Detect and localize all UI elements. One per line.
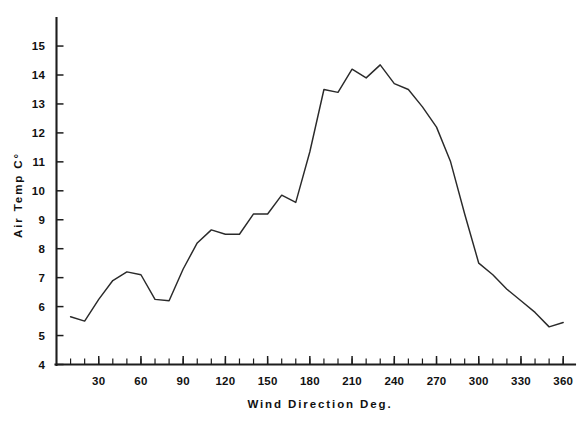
y-tick-label: 14 [32, 69, 46, 81]
x-tick-label: 330 [511, 375, 531, 387]
x-axis-major-ticks [99, 356, 563, 365]
x-tick-label: 90 [177, 375, 190, 387]
y-tick-label: 15 [32, 40, 46, 52]
x-axis-title: Wind Direction Deg. [247, 398, 392, 410]
x-tick-label: 120 [216, 375, 236, 387]
y-tick-label: 4 [38, 359, 45, 371]
y-tick-label: 8 [38, 243, 45, 255]
chart-container: 456789101112131415 306090120150180210240… [0, 0, 588, 430]
y-tick-label: 5 [38, 330, 45, 342]
x-tick-label: 30 [92, 375, 105, 387]
x-tick-label: 180 [300, 375, 320, 387]
x-tick-label: 210 [342, 375, 362, 387]
y-tick-label: 11 [32, 156, 45, 168]
y-axis-tick-labels: 456789101112131415 [32, 40, 46, 370]
y-tick-label: 10 [32, 185, 45, 197]
y-tick-label: 12 [32, 127, 45, 139]
x-tick-label: 300 [469, 375, 489, 387]
x-tick-label: 360 [553, 375, 573, 387]
x-tick-label: 240 [384, 375, 404, 387]
x-tick-label: 270 [427, 375, 447, 387]
data-series-line [71, 65, 564, 327]
x-tick-label: 60 [134, 375, 147, 387]
x-axis-tick-labels: 306090120150180210240270300330360 [92, 375, 573, 387]
y-tick-label: 7 [38, 272, 45, 284]
y-tick-label: 6 [38, 301, 45, 313]
line-chart: 456789101112131415 306090120150180210240… [0, 0, 588, 430]
y-tick-label: 9 [38, 214, 45, 226]
y-axis-title: Air Temp C° [12, 152, 24, 238]
y-tick-label: 13 [32, 98, 45, 110]
x-tick-label: 150 [258, 375, 278, 387]
